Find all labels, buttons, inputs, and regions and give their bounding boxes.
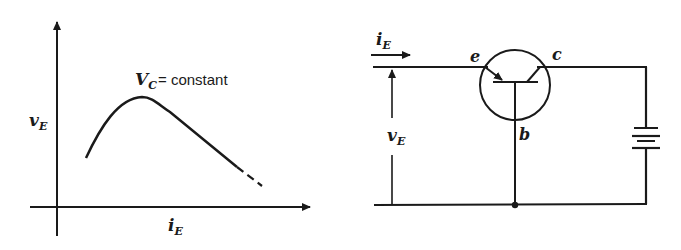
voltage-label: vE xyxy=(387,125,406,148)
common-base-circuit: iE e c xyxy=(371,29,660,208)
characteristic-curve-dashed xyxy=(237,167,262,186)
current-label: iE xyxy=(376,29,391,52)
characteristic-graph: vE VC= constant iE xyxy=(29,22,310,238)
pnp-transistor-icon xyxy=(480,50,550,205)
curve-label: VC= constant xyxy=(135,69,228,92)
ground-wire xyxy=(374,204,647,205)
collector-label: c xyxy=(552,45,562,64)
x-axis-label: iE xyxy=(168,215,183,238)
base-label: b xyxy=(519,125,530,144)
emitter-label: e xyxy=(470,47,480,66)
y-axis-label: vE xyxy=(29,110,48,133)
junction-dot xyxy=(512,202,518,208)
characteristic-curve xyxy=(86,97,237,167)
battery-icon xyxy=(632,128,660,148)
diagram-canvas: vE VC= constant iE iE xyxy=(0,0,681,250)
